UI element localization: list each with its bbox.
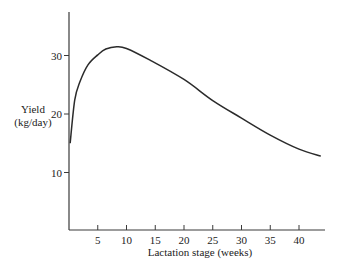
x-tick-label: 40 [294, 234, 306, 246]
x-tick-label: 35 [265, 234, 277, 246]
x-tick-label: 25 [207, 234, 219, 246]
y-axis: 102030 [51, 12, 69, 230]
y-axis-label-line1: Yield [21, 103, 45, 115]
y-axis-label-line2: (kg/day) [14, 116, 52, 129]
yield-curve [70, 47, 321, 156]
x-tick-label: 10 [121, 234, 133, 246]
x-tick-label: 15 [150, 234, 162, 246]
x-tick-label: 30 [236, 234, 248, 246]
y-tick-label: 10 [51, 167, 63, 179]
y-tick-label: 30 [51, 50, 63, 62]
y-tick-label: 20 [51, 108, 63, 120]
x-axis: 510152025303540 [69, 225, 325, 246]
x-axis-ticks: 510152025303540 [95, 225, 305, 246]
x-axis-label: Lactation stage (weeks) [148, 246, 253, 259]
x-tick-label: 5 [95, 234, 101, 246]
lactation-yield-chart: 102030 510152025303540 Yield (kg/day) La… [0, 0, 338, 268]
y-axis-ticks: 102030 [51, 50, 69, 179]
x-tick-label: 20 [179, 234, 191, 246]
